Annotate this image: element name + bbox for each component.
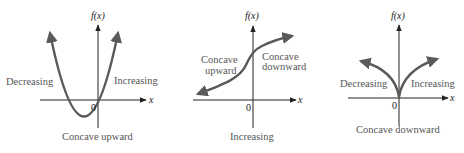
concave-upward-label-line2: upward (205, 65, 237, 76)
increasing-label: Increasing (114, 75, 158, 86)
origin-label: 0 (392, 100, 397, 111)
concavity-diagram: f(x) x 0 Decreasing Increasing Concave u… (0, 0, 464, 153)
concave-downward-label-line2: downward (262, 61, 307, 72)
concave-downward-label: Concave downward (356, 124, 440, 135)
decreasing-label: Decreasing (340, 78, 388, 89)
increasing-label: Increasing (411, 78, 455, 89)
increasing-label: Increasing (230, 131, 274, 142)
x-axis-label: x (297, 94, 303, 105)
x-axis-label: x (449, 92, 455, 103)
origin-label: 0 (91, 102, 96, 113)
y-axis-label: f(x) (91, 10, 106, 22)
panel-parabola: f(x) x 0 Decreasing Increasing Concave u… (6, 10, 158, 142)
concave-upward-label-line1: Concave (201, 54, 238, 65)
x-axis-label: x (148, 94, 154, 105)
parabola-curve (50, 33, 118, 117)
concave-upward-label: Concave upward (62, 131, 134, 142)
panel-s-curve: f(x) x 0 Concave upward Concave downward… (193, 10, 307, 142)
decreasing-label: Decreasing (6, 76, 54, 87)
origin-label: 0 (246, 102, 251, 113)
y-axis-label: f(x) (391, 10, 406, 22)
panel-cusp: f(x) x 0 Decreasing Increasing Concave d… (340, 10, 455, 135)
y-axis-label: f(x) (245, 10, 260, 22)
